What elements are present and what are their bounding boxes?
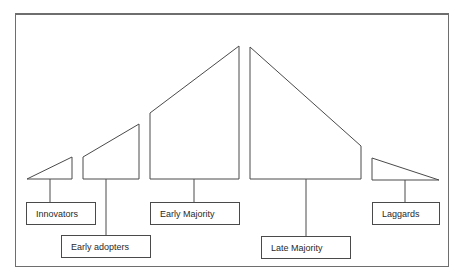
early-majority-shape (150, 46, 239, 179)
late-majority-shape (250, 47, 361, 179)
early-adopters-shape (83, 124, 139, 179)
early-majority-label: Early Majority (150, 202, 240, 225)
laggards-label: Laggards (372, 202, 440, 225)
late-majority-label: Late Majority (261, 236, 351, 259)
early-majority-label-text: Early Majority (160, 209, 215, 219)
innovators-shape (27, 157, 72, 179)
early-adopters-label: Early adopters (61, 235, 151, 258)
laggards-label-text: Laggards (382, 209, 420, 219)
laggards-shape (372, 158, 439, 180)
innovators-label: Innovators (26, 202, 96, 225)
innovators-label-text: Innovators (36, 209, 78, 219)
late-majority-label-text: Late Majority (271, 243, 323, 253)
early-adopters-label-text: Early adopters (71, 242, 129, 252)
